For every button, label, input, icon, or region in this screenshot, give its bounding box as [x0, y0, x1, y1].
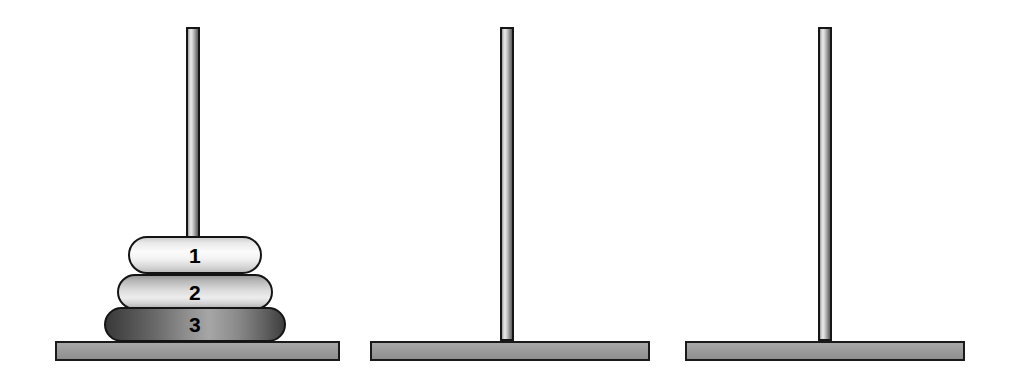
disk-3[interactable]: 3 [104, 307, 286, 342]
disk-label-2: 2 [189, 282, 201, 303]
peg-base-peg-c [685, 341, 965, 361]
disk-2[interactable]: 2 [117, 274, 273, 310]
disk-label-3: 3 [189, 314, 201, 335]
peg-rod-peg-c[interactable] [818, 27, 832, 341]
disk-1[interactable]: 1 [128, 236, 262, 274]
peg-rod-peg-b[interactable] [500, 27, 514, 341]
peg-base-peg-a [55, 341, 340, 361]
peg-base-peg-b [370, 341, 650, 361]
tower-of-hanoi-scene: 123 [0, 0, 1014, 374]
disk-label-1: 1 [189, 245, 201, 266]
